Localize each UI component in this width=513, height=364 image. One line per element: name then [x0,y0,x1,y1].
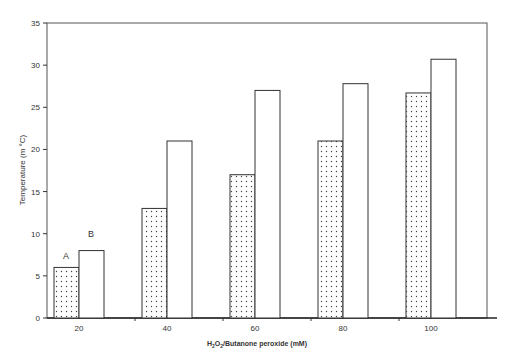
bar-b [343,84,368,318]
y-tick-label: 30 [31,61,40,70]
x-axis-label: H2O2/Butanone peroxide (mM) [207,340,307,349]
bar-a [142,208,167,318]
x-tick-label: 80 [339,324,348,333]
y-tick-label: 10 [31,230,40,239]
y-tick-label: 20 [31,145,40,154]
y-tick-label: 0 [36,314,41,323]
y-tick-label: 15 [31,188,40,197]
bar-a [54,267,79,318]
y-tick-label: 35 [31,19,40,28]
chart: 0510152025303520AB406080100H2O2/Butanone… [0,0,513,364]
bar-b [79,251,104,318]
annotation-b: B [88,229,94,239]
y-axis-label: Temperature (m °C) [18,135,27,206]
x-tick-label: 40 [163,324,172,333]
bar-a [230,175,255,318]
y-tick-label: 5 [36,272,41,281]
bar-chart: 0510152025303520AB406080100H2O2/Butanone… [0,0,513,364]
bar-a [406,93,431,318]
bar-b [255,90,280,318]
bar-b [167,141,192,318]
annotation-a: A [63,251,69,261]
y-tick-label: 25 [31,103,40,112]
x-tick-label: 20 [75,324,84,333]
x-tick-label: 100 [424,324,438,333]
bar-b [431,59,456,318]
bar-a [318,141,343,318]
x-tick-label: 60 [251,324,260,333]
